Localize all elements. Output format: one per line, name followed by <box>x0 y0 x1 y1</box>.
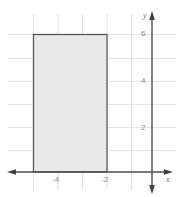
y-axis <box>149 11 155 194</box>
y-tick-label-4: 4 <box>141 77 145 85</box>
coordinate-plane-figure: 6 4 2 -4 -2 y x <box>0 0 180 197</box>
plot-canvas <box>0 0 180 197</box>
x-axis-label: x <box>166 176 170 184</box>
x-tick-label-minus-2: -2 <box>101 176 108 184</box>
y-tick-label-2: 2 <box>141 124 145 132</box>
y-tick-label-6: 6 <box>141 30 145 38</box>
x-tick-label-minus-4: -4 <box>52 176 59 184</box>
y-axis-label: y <box>143 12 147 20</box>
shaded-rectangle <box>34 35 108 173</box>
